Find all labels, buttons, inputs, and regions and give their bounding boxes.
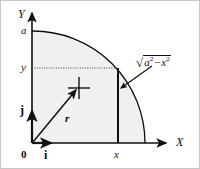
tick-label-y: y bbox=[21, 62, 26, 73]
unit-vector-i-label: i bbox=[44, 149, 47, 161]
y-axis-label: Y bbox=[18, 8, 25, 20]
quarter-disc-shading bbox=[32, 31, 145, 143]
radical-sign: √ bbox=[136, 56, 143, 69]
origin-label: 0 bbox=[21, 149, 27, 160]
radius-vector-label: r bbox=[65, 113, 69, 124]
radicand-exponent-x: 2 bbox=[166, 55, 170, 63]
figure-canvas: X Y 0 a y x i j r √a2−x2 bbox=[0, 0, 200, 169]
unit-vector-j-label: j bbox=[20, 104, 24, 116]
radicand: a2−x2 bbox=[143, 55, 171, 68]
x-axis-label: X bbox=[176, 136, 183, 148]
diagram-svg bbox=[0, 0, 200, 169]
tick-label-x: x bbox=[114, 149, 119, 160]
tick-label-a: a bbox=[21, 25, 27, 36]
radical-annotation: √a2−x2 bbox=[136, 55, 171, 69]
